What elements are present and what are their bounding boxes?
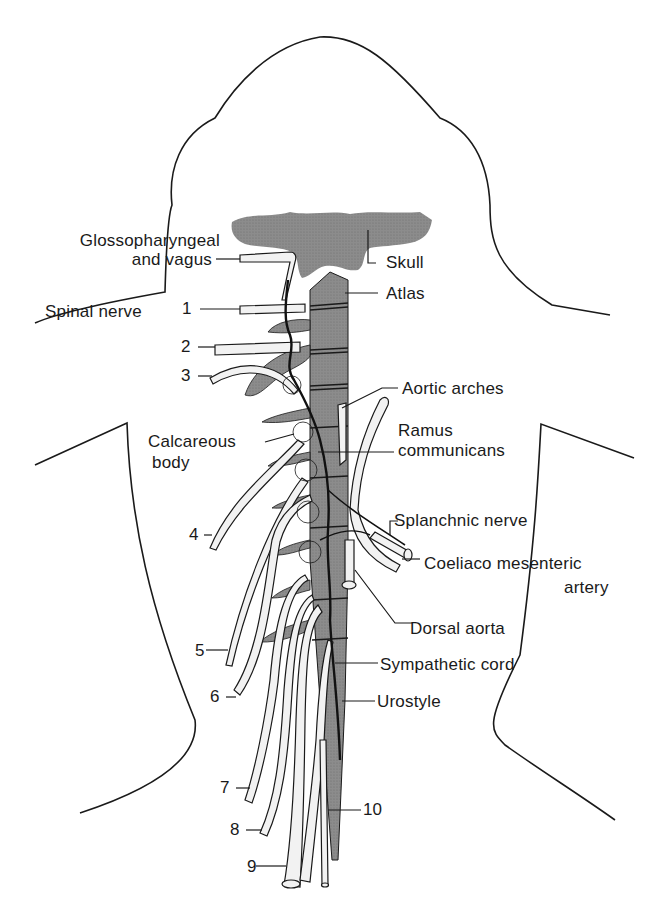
label-calcareous-line1: Calcareous [148,432,236,452]
nerve-number-9: 9 [247,857,256,877]
nerve-number-4: 4 [189,525,198,545]
label-splanchnic-nerve: Splanchnic nerve [394,511,528,531]
right-body-outline [494,424,634,820]
nerve-number-6: 6 [210,687,219,707]
label-ramus-line2: communicans [398,441,505,461]
nerve-number-10: 10 [363,800,382,820]
nerve-number-8: 8 [230,820,239,840]
frog-nervous-system-diagram [0,0,657,904]
nerve-number-1: 1 [182,299,191,319]
label-aortic-arches: Aortic arches [402,379,504,399]
nerve-2 [215,342,300,355]
label-ramus-line1: Ramus [398,421,453,441]
nerve-10 [320,740,328,885]
label-spinal-nerve: Spinal nerve [45,302,142,322]
nerve-number-2: 2 [181,337,190,357]
label-coeliaco-line2: artery [564,578,609,598]
label-atlas: Atlas [386,284,425,304]
label-skull: Skull [386,253,424,273]
left-body-outline [35,423,195,813]
label-glossopharyngeal-line1: Glossopharyngeal [40,231,220,251]
nerve-number-5: 5 [195,641,204,661]
label-calcareous-line2: body [152,453,190,473]
nerve-1 [240,304,305,314]
label-glossopharyngeal-line2: and vagus [40,250,212,270]
nerve-number-3: 3 [181,366,190,386]
label-urostyle: Urostyle [377,692,441,712]
label-dorsal-aorta: Dorsal aorta [410,619,505,639]
label-coeliaco-line1: Coeliaco mesenteric [424,554,582,574]
nerve-number-7: 7 [220,778,229,798]
label-sympathetic-cord: Sympathetic cord [380,655,515,675]
